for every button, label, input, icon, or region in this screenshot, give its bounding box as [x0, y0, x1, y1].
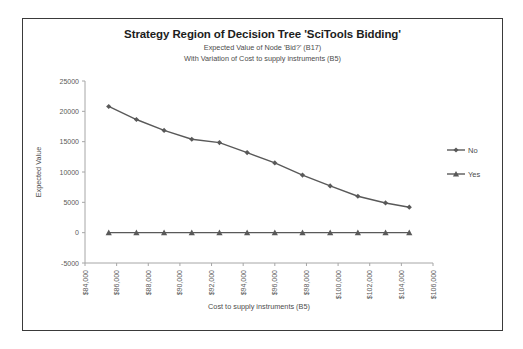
x-axis-tick-label: $106,000 — [430, 270, 437, 299]
x-axis-tick-label: $102,000 — [366, 270, 373, 299]
data-point-marker — [328, 183, 333, 188]
legend-label-yes: Yes — [468, 170, 480, 179]
data-point-marker — [300, 172, 305, 177]
x-axis-tick-label: $84,000 — [82, 270, 89, 295]
y-axis-tick-label: 20000 — [60, 108, 80, 115]
data-point-marker — [217, 140, 222, 145]
x-axis-tick-label: $90,000 — [176, 270, 183, 295]
x-axis-tick-label: $96,000 — [271, 270, 278, 295]
series-line-no — [109, 106, 410, 207]
x-axis-tick-label: $92,000 — [208, 270, 215, 295]
data-point-marker — [453, 147, 458, 152]
y-axis-tick-label: -5000 — [61, 260, 79, 267]
y-axis-tick-label: 15000 — [60, 138, 80, 145]
x-axis-tick-label: $86,000 — [113, 270, 120, 295]
y-axis-tick-label: 10000 — [60, 169, 80, 176]
x-axis-tick-label: $88,000 — [145, 270, 152, 295]
y-axis-tick-label: 25000 — [60, 78, 80, 85]
data-point-marker — [106, 104, 111, 109]
data-series-group — [106, 104, 413, 235]
data-point-marker — [245, 150, 250, 155]
x-axis-tick-label: $94,000 — [240, 270, 247, 295]
data-point-marker — [189, 137, 194, 142]
data-point-marker — [355, 194, 360, 199]
chart-frame: Strategy Region of Decision Tree 'SciToo… — [22, 18, 503, 331]
data-point-marker — [134, 117, 139, 122]
data-point-marker — [407, 205, 412, 210]
y-axis: -50000500010000150002000025000 — [60, 78, 85, 267]
x-axis-tick-label: $98,000 — [303, 270, 310, 295]
legend-label-no: No — [468, 146, 478, 155]
x-axis-title: Cost to supply instruments (B5) — [208, 302, 310, 311]
y-axis-tick-label: 5000 — [63, 199, 79, 206]
x-axis-tick-label: $100,000 — [335, 270, 342, 299]
chart-legend: NoYes — [447, 146, 480, 179]
data-point-marker — [383, 200, 388, 205]
data-point-marker — [272, 160, 277, 165]
y-axis-title: Expected Value — [34, 147, 43, 198]
line-chart-plot: -50000500010000150002000025000 $84,000$8… — [23, 19, 504, 332]
data-point-marker — [161, 128, 166, 133]
x-axis-tick-label: $104,000 — [398, 270, 405, 299]
y-axis-tick-label: 0 — [75, 229, 79, 236]
x-axis: $84,000$86,000$88,000$90,000$92,000$94,0… — [82, 263, 437, 299]
